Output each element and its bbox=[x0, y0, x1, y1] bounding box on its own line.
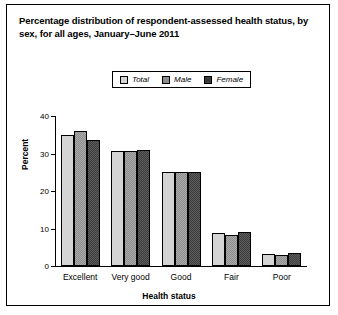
legend-label-female: Female bbox=[216, 75, 243, 84]
bar-male bbox=[124, 151, 137, 266]
bar-male bbox=[275, 255, 288, 266]
chart-figure: Percentage distribution of respondent-as… bbox=[6, 4, 330, 306]
bar-male bbox=[175, 172, 188, 267]
bars bbox=[206, 116, 256, 266]
bar-group: Excellent bbox=[55, 116, 105, 266]
legend-swatch-icon bbox=[162, 76, 170, 84]
bars bbox=[105, 116, 155, 266]
y-tick-label: 10 bbox=[40, 224, 49, 233]
y-tick-label: 0 bbox=[45, 262, 49, 271]
x-axis-label: Health status bbox=[7, 291, 331, 301]
x-tick-label: Fair bbox=[206, 272, 256, 282]
bar-total bbox=[212, 233, 225, 266]
bar-group: Good bbox=[156, 116, 206, 266]
chart-title: Percentage distribution of respondent-as… bbox=[19, 15, 311, 40]
bar-group: Very good bbox=[105, 116, 155, 266]
legend-swatch-icon bbox=[120, 76, 128, 84]
bar-group: Poor bbox=[257, 116, 307, 266]
legend-label-total: Total bbox=[132, 75, 149, 84]
bar-male bbox=[74, 131, 87, 266]
bar-female bbox=[87, 140, 100, 266]
bars bbox=[257, 116, 307, 266]
y-axis-label: Percent bbox=[20, 139, 30, 170]
x-tick-label: Very good bbox=[105, 272, 155, 282]
bar-female bbox=[288, 253, 301, 266]
bar-female bbox=[137, 150, 150, 266]
x-tick-label: Excellent bbox=[55, 272, 105, 282]
y-tick-label: 40 bbox=[40, 112, 49, 121]
bar-female bbox=[238, 232, 251, 266]
bars bbox=[55, 116, 105, 266]
legend-item-female: Female bbox=[204, 75, 243, 84]
chart-legend: Total Male Female bbox=[112, 71, 251, 88]
bar-male bbox=[225, 235, 238, 267]
bar-total bbox=[111, 151, 124, 267]
bar-female bbox=[188, 172, 201, 266]
bar-total bbox=[162, 172, 175, 266]
x-tick-label: Poor bbox=[257, 272, 307, 282]
bar-group: Fair bbox=[206, 116, 256, 266]
bars bbox=[156, 116, 206, 266]
bar-total bbox=[61, 135, 74, 266]
legend-item-total: Total bbox=[120, 75, 149, 84]
x-axis-line bbox=[55, 266, 307, 267]
y-tick bbox=[51, 266, 55, 267]
y-tick-label: 20 bbox=[40, 187, 49, 196]
y-tick-label: 30 bbox=[40, 149, 49, 158]
bar-total bbox=[262, 254, 275, 266]
legend-label-male: Male bbox=[174, 75, 191, 84]
x-tick-label: Good bbox=[156, 272, 206, 282]
bar-groups: ExcellentVery goodGoodFairPoor bbox=[55, 116, 307, 266]
legend-swatch-icon bbox=[204, 76, 212, 84]
plot-area: 010203040 ExcellentVery goodGoodFairPoor bbox=[55, 116, 307, 266]
legend-item-male: Male bbox=[162, 75, 191, 84]
